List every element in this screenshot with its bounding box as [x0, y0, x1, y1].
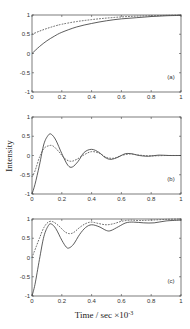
y-tick-label: 0.5 [22, 133, 31, 139]
y-tick-label: 0 [27, 255, 31, 261]
figure: 00.20.40.60.8110.50-0.5-1(a) 00.20.40.60… [0, 0, 190, 329]
y-tick-label: 1 [27, 114, 31, 120]
y-tick-label: 0 [27, 153, 31, 159]
x-tick-label: 0.6 [117, 94, 126, 100]
x-tick-label: 0.8 [147, 298, 156, 304]
x-tick-label: 0.4 [87, 94, 96, 100]
panel-a: 00.20.40.60.8110.50-0.5-1(a) [20, 12, 184, 100]
x-tick-label: 0.2 [58, 196, 67, 202]
series-dotted [32, 219, 181, 258]
x-tick-label: 0.4 [87, 196, 96, 202]
x-tick-label: 0.6 [117, 298, 126, 304]
x-axis-label-text: Time / sec ×10 [75, 310, 129, 320]
series-solid [32, 15, 181, 53]
series-dotted [32, 15, 181, 34]
y-axis-label: Intensity [4, 140, 14, 172]
x-axis-label-exponent: -3 [128, 310, 133, 316]
x-tick-label: 0 [30, 298, 34, 304]
x-tick-label: 1 [179, 94, 183, 100]
y-tick-label: 0.5 [22, 235, 31, 241]
panel-label: (c) [168, 278, 175, 284]
x-tick-label: 0.6 [117, 196, 126, 202]
x-tick-label: 0 [30, 94, 34, 100]
y-tick-label: 0.5 [22, 31, 31, 37]
x-tick-label: 0 [30, 196, 34, 202]
series-solid [32, 220, 181, 296]
x-tick-label: 1 [179, 298, 183, 304]
y-tick-label: -1 [25, 293, 31, 299]
x-tick-label: 0.2 [58, 298, 67, 304]
series-solid [32, 134, 181, 194]
y-tick-label: -0.5 [20, 274, 31, 280]
y-tick-label: 0 [27, 51, 31, 57]
panel-label: (b) [167, 176, 174, 182]
y-tick-label: 1 [27, 12, 31, 18]
x-tick-label: 0.2 [58, 94, 67, 100]
x-tick-label: 0.4 [87, 298, 96, 304]
x-tick-label: 0.8 [147, 94, 156, 100]
x-tick-label: 0.8 [147, 196, 156, 202]
x-tick-label: 1 [179, 196, 183, 202]
svg-text:Time / sec ×10-3: Time / sec ×10-3 [75, 310, 134, 321]
x-axis-label: Time / sec ×10-3 [75, 310, 134, 321]
series-dotted [32, 145, 181, 176]
panel-b: 00.20.40.60.8110.50-0.5-1(b) [20, 114, 184, 202]
y-tick-label: -0.5 [20, 70, 31, 76]
panel-c: 00.20.40.60.8110.50-0.5-1(c) [20, 216, 184, 304]
y-tick-label: -1 [25, 89, 31, 95]
y-tick-label: 1 [27, 216, 31, 222]
panel-label: (a) [167, 74, 174, 80]
y-tick-label: -0.5 [20, 172, 31, 178]
y-tick-label: -1 [25, 191, 31, 197]
